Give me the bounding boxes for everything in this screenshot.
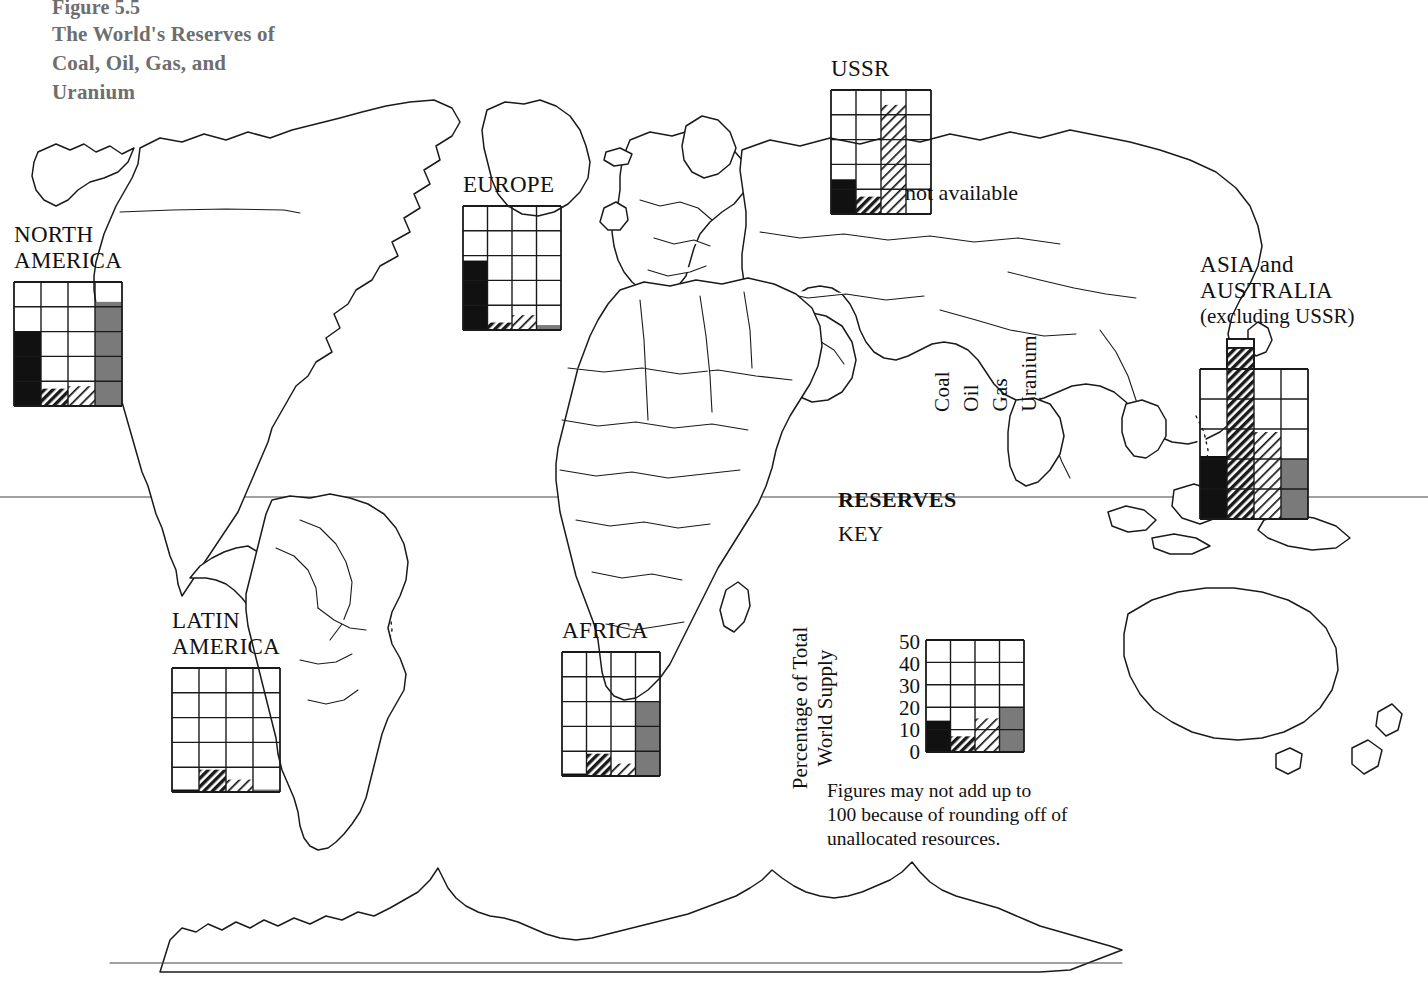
bar-oil	[488, 323, 513, 330]
bar-coal	[1200, 456, 1227, 519]
antarctica-outline	[160, 862, 1122, 972]
chart-latin-america	[172, 668, 280, 792]
region-asia-australia: ASIA and AUSTRALIA (excluding USSR)	[1200, 252, 1428, 519]
reserves-heading: RESERVES	[838, 487, 957, 513]
chart-north-america	[14, 282, 122, 406]
region-sublabel-asia-australia: (excluding USSR)	[1200, 304, 1428, 329]
bar-gas	[226, 780, 253, 792]
region-africa: AFRICA	[562, 618, 660, 776]
key-column-header-coal: Coal	[930, 371, 955, 412]
bar-oil	[951, 736, 976, 752]
australia-outline	[1124, 588, 1338, 740]
key-column-header-gas: Gas	[988, 378, 1013, 412]
region-north-america: NORTH AMERICA	[14, 222, 122, 406]
bar-coal	[831, 179, 856, 214]
bar-coal	[14, 332, 41, 406]
tasmania-outline	[1276, 748, 1302, 774]
region-label-europe: EUROPE	[463, 172, 561, 198]
region-europe: EUROPE	[463, 172, 561, 330]
bar-gas	[975, 718, 1000, 752]
new-zealand-north-outline	[1376, 704, 1402, 736]
madagascar-outline	[720, 582, 750, 632]
new-zealand-south-outline	[1352, 740, 1382, 774]
key-chart-grid	[926, 640, 1024, 752]
region-label-africa: AFRICA	[562, 618, 660, 644]
bar-coal	[463, 261, 488, 330]
bar-oil	[587, 754, 612, 776]
bar-coal	[926, 721, 951, 752]
chart-europe	[463, 206, 561, 330]
region-label-north-america: NORTH AMERICA	[14, 222, 122, 274]
key-ytick-0: 0	[886, 740, 920, 765]
bar-oil	[1227, 348, 1254, 519]
java-outline	[1152, 534, 1210, 554]
ussr-not-available-label: not available	[905, 180, 1018, 206]
region-label-ussr: USSR	[831, 56, 931, 82]
chart-africa	[562, 652, 660, 776]
bar-oil	[199, 770, 226, 792]
indochina-outline	[1122, 400, 1166, 458]
key-heading: KEY	[838, 521, 883, 547]
region-label-asia-australia: ASIA and AUSTRALIA	[1200, 252, 1428, 304]
bar-gas	[68, 386, 95, 406]
bar-uranium	[95, 302, 122, 406]
key-column-header-uranium: Uranium	[1017, 335, 1042, 412]
chart-asia-australia	[1200, 339, 1428, 519]
key-footnote: Figures may not add up to 100 because of…	[827, 779, 1137, 851]
bar-oil	[856, 197, 881, 214]
key-axis-title: Percentage of Total World Supply	[788, 608, 838, 808]
figure-canvas: Figure 5.5 The World's Reserves of Coal,…	[0, 0, 1428, 990]
region-latin-america: LATIN AMERICA	[172, 608, 280, 792]
bar-oil	[41, 389, 68, 406]
bar-gas	[1254, 432, 1281, 519]
sumatra-outline	[1108, 506, 1156, 532]
bar-gas	[881, 105, 906, 214]
key-column-header-oil: Oil	[959, 384, 984, 412]
bar-uranium	[636, 702, 661, 776]
bar-gas	[611, 764, 636, 776]
british-isles-outline	[600, 202, 628, 230]
bar-gas	[512, 315, 537, 330]
region-label-latin-america: LATIN AMERICA	[172, 608, 280, 660]
